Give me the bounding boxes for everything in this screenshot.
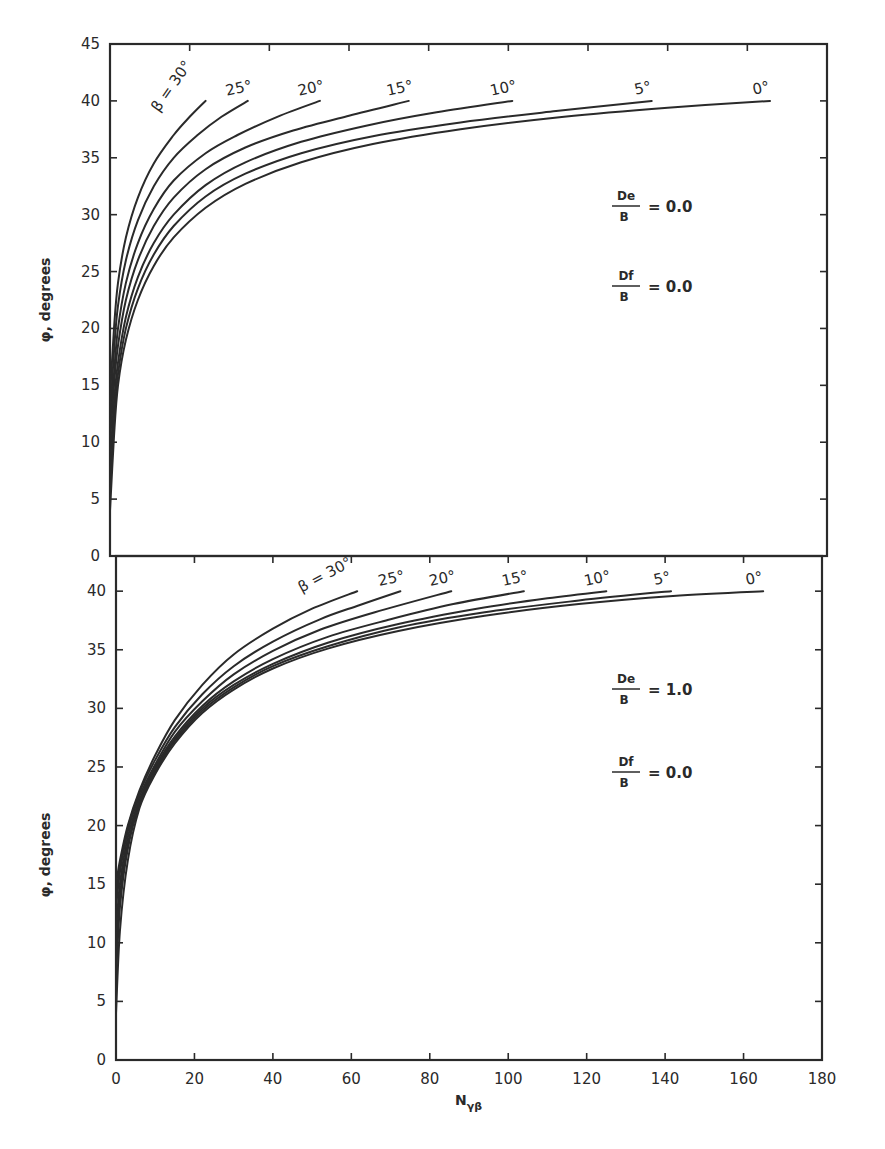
curve-label: 15° xyxy=(500,567,530,590)
ratio-annotation: DfB= 0.0 xyxy=(612,269,692,304)
x-tick-label: 40 xyxy=(263,1070,282,1088)
curve-label: 5° xyxy=(652,568,672,589)
y-tick-label: 35 xyxy=(81,149,100,167)
curve-label: 20° xyxy=(427,567,457,590)
curve-beta-10 xyxy=(116,591,606,954)
bearing-capacity-chart: 051015202530354045β = 30°25°20°15°10°5°0… xyxy=(0,0,885,1149)
y-tick-label: 10 xyxy=(87,934,106,952)
ratio-numerator: Df xyxy=(618,269,634,283)
ratio-numerator: Df xyxy=(618,755,634,769)
ratio-denominator: B xyxy=(619,210,628,224)
ratio-annotation: DeB= 0.0 xyxy=(612,189,692,224)
curve-label: β = 30° xyxy=(295,553,355,596)
x-tick-label: 140 xyxy=(651,1070,680,1088)
curve-label: 10° xyxy=(488,76,518,99)
x-tick-label: 20 xyxy=(185,1070,204,1088)
curve-label: 20° xyxy=(296,76,326,99)
x-tick-label: 60 xyxy=(342,1070,361,1088)
y-tick-label: 15 xyxy=(81,376,100,394)
y-tick-label: 45 xyxy=(81,35,100,53)
curve-label: 0° xyxy=(744,568,764,589)
ratio-value: = 0.0 xyxy=(648,764,692,782)
y-axis-title-bottom: φ, degrees xyxy=(37,813,53,898)
curve-beta-15 xyxy=(116,591,524,931)
y-tick-label: 35 xyxy=(87,641,106,659)
curve-beta-5 xyxy=(116,591,671,978)
ratio-numerator: De xyxy=(617,189,635,203)
x-tick-label: 0 xyxy=(111,1070,121,1088)
curve-label: 5° xyxy=(632,77,652,98)
x-tick-label: 100 xyxy=(494,1070,523,1088)
y-tick-label: 5 xyxy=(96,992,106,1010)
y-tick-label: 30 xyxy=(87,699,106,717)
y-tick-label: 40 xyxy=(87,582,106,600)
y-tick-label: 0 xyxy=(96,1051,106,1069)
curve-beta-10 xyxy=(110,101,512,465)
ratio-numerator: De xyxy=(617,672,635,686)
curve-beta-5 xyxy=(110,101,652,488)
ratio-value: = 1.0 xyxy=(648,681,692,699)
bottom-panel: 0510152025303540020406080100120140160180… xyxy=(87,553,836,1088)
y-tick-label: 25 xyxy=(87,758,106,776)
curve-label: 15° xyxy=(385,76,415,99)
curve-label: 25° xyxy=(224,76,254,99)
ratio-value: = 0.0 xyxy=(648,278,692,296)
curve-beta-0 xyxy=(116,591,763,1013)
x-tick-label: 160 xyxy=(729,1070,758,1088)
curve-beta-30 xyxy=(116,591,357,884)
y-tick-label: 15 xyxy=(87,875,106,893)
curve-beta-0 xyxy=(110,101,770,511)
x-tick-label: 120 xyxy=(572,1070,601,1088)
y-tick-label: 5 xyxy=(90,490,100,508)
y-tick-label: 40 xyxy=(81,92,100,110)
curve-label: 0° xyxy=(751,77,771,98)
ratio-annotation: DfB= 0.0 xyxy=(612,755,692,790)
plot-frame xyxy=(116,556,822,1060)
y-tick-label: 25 xyxy=(81,263,100,281)
curve-beta-25 xyxy=(110,101,248,420)
curve-beta-15 xyxy=(110,101,409,442)
y-axis-title-top: φ, degrees xyxy=(37,258,53,343)
y-tick-label: 20 xyxy=(87,817,106,835)
curve-label: 10° xyxy=(582,567,612,590)
axis-labels: φ, degreesφ, degreesNγβ xyxy=(37,258,482,1113)
y-tick-label: 10 xyxy=(81,433,100,451)
x-tick-label: 80 xyxy=(420,1070,439,1088)
ratio-denominator: B xyxy=(619,290,628,304)
ratio-value: = 0.0 xyxy=(648,198,692,216)
curve-label: β = 30° xyxy=(147,57,195,115)
y-tick-label: 20 xyxy=(81,319,100,337)
x-axis-title: Nγβ xyxy=(455,1092,482,1113)
ratio-denominator: B xyxy=(619,693,628,707)
x-tick-label: 180 xyxy=(808,1070,837,1088)
ratio-annotation: DeB= 1.0 xyxy=(612,672,692,707)
top-panel: 051015202530354045β = 30°25°20°15°10°5°0… xyxy=(81,35,827,565)
y-tick-label: 0 xyxy=(90,547,100,565)
ratio-denominator: B xyxy=(619,776,628,790)
curve-label: 25° xyxy=(376,567,406,590)
y-tick-label: 30 xyxy=(81,206,100,224)
